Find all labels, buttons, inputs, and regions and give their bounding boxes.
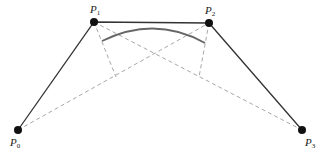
label-p3: P3	[304, 136, 316, 150]
bezier-diagram: P0 P1 P2 P3	[0, 0, 320, 155]
construction-lines	[18, 22, 302, 130]
dashed-p2-foot	[199, 23, 209, 77]
point-p1	[90, 18, 98, 26]
control-points	[14, 18, 306, 134]
dashed-p0-p2	[18, 23, 209, 130]
label-p2: P2	[204, 4, 216, 18]
point-p2	[205, 19, 213, 27]
label-p0: P0	[9, 136, 21, 150]
dashed-p1-foot	[94, 22, 116, 77]
label-p1: P1	[89, 3, 101, 17]
dashed-p1-p3	[94, 22, 302, 130]
point-p0	[14, 126, 22, 134]
control-polygon	[18, 22, 302, 130]
curve-arc	[102, 28, 205, 43]
point-p3	[298, 126, 306, 134]
